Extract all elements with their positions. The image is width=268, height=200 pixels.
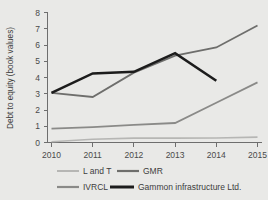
x-tick-label: 2014 xyxy=(207,150,226,160)
legend-label-gammon-infrastructure-ltd[interactable]: Gammon infrastructure Ltd. xyxy=(138,182,241,192)
y-tick-label: 1 xyxy=(35,121,40,131)
legend-label-ivrcl[interactable]: IVRCL xyxy=(83,182,108,192)
y-axis-title: Debt to equity (book values) xyxy=(6,27,15,129)
y-tick-label: 5 xyxy=(35,56,40,66)
y-tick-label: 2 xyxy=(35,105,40,115)
x-tick-label: 2010 xyxy=(42,150,61,160)
x-tick-label: 2012 xyxy=(124,150,143,160)
y-tick-label: 7 xyxy=(35,24,40,34)
x-tick-label: 2011 xyxy=(84,150,103,160)
legend-label-gmr[interactable]: GMR xyxy=(143,166,163,176)
legend-label-l-and-t[interactable]: L and T xyxy=(83,166,111,176)
y-tick-label: 6 xyxy=(35,40,40,50)
y-tick-label: 3 xyxy=(35,89,40,99)
y-tick-label: 4 xyxy=(35,73,40,83)
chart-container: Debt to equity (book values) 012345678 2… xyxy=(0,0,268,200)
y-tick-label: 0 xyxy=(35,138,40,148)
x-tick-label: 2015 xyxy=(248,150,267,160)
x-tick-label: 2013 xyxy=(166,150,185,160)
line-chart: Debt to equity (book values) 012345678 2… xyxy=(0,0,268,200)
y-tick-label: 8 xyxy=(35,8,40,18)
